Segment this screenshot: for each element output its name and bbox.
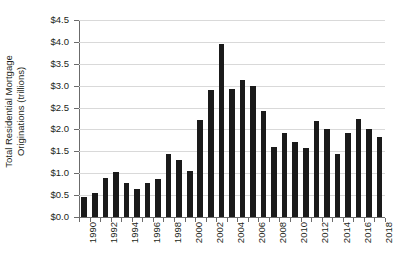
bar-slot [343,20,354,217]
x-axis-tick-labels: 1990199219941996199820002002200420062008… [79,222,385,266]
bar[interactable] [103,178,109,217]
bar[interactable] [377,137,383,217]
x-axis-tick-label: 2010 [299,222,309,243]
bar-slot [206,20,217,217]
bar[interactable] [124,183,130,217]
y-axis-tickmark [74,108,79,109]
bar[interactable] [187,171,193,217]
bar[interactable] [176,160,182,217]
bar[interactable] [155,179,161,217]
bar-slot [90,20,101,217]
bar[interactable] [292,142,298,217]
y-axis-tickmark [74,129,79,130]
bar-slot [142,20,153,217]
bar-slot [153,20,164,217]
bar[interactable] [335,154,341,217]
bar[interactable] [81,197,87,217]
bar-slot [216,20,227,217]
bar-slot [100,20,111,217]
plot-area [79,20,385,217]
bar-slot [111,20,122,217]
y-axis-tick-label: $2.5 [51,103,70,113]
y-axis-tick-label: $2.0 [51,124,70,134]
bar[interactable] [197,120,203,217]
y-axis-tickmark [74,42,79,43]
x-axis-tick-label: 1996 [152,222,162,243]
x-axis-tick-label: 2014 [342,222,352,243]
bar[interactable] [92,193,98,218]
bar[interactable] [166,154,172,217]
bar[interactable] [250,86,256,217]
bar[interactable] [145,183,151,217]
bar-chart: Total Residential Mortgage Originations … [0,0,401,266]
bar-slot [184,20,195,217]
y-axis-tick-label: $4.0 [51,37,70,47]
bar[interactable] [314,121,320,217]
x-axis-tick-label: 2016 [363,222,373,243]
y-axis-tick-label: $3.5 [51,59,70,69]
bar[interactable] [240,80,246,217]
bar[interactable] [282,133,288,217]
bar-slot [374,20,385,217]
bar-slot [311,20,322,217]
y-axis-tickmark [74,195,79,196]
x-axis-tick-label: 1992 [109,222,119,243]
y-axis-tick-label: $1.0 [51,168,70,178]
bar-slot [121,20,132,217]
y-axis-tickmark [74,20,79,21]
bar-slot [174,20,185,217]
bar-slot [79,20,90,217]
y-axis-tickmark [74,64,79,65]
y-axis-tick-label: $4.5 [51,15,70,25]
bar-slot [195,20,206,217]
x-axis-tick-label: 2018 [384,222,394,243]
y-axis-tickmark [74,151,79,152]
bar[interactable] [208,90,214,217]
bar-slot [269,20,280,217]
bar-slot [332,20,343,217]
bar-slot [237,20,248,217]
x-axis-tick-label: 2000 [194,222,204,243]
bar[interactable] [324,129,330,217]
x-axis-tick-label: 2004 [236,222,246,243]
bar-series [79,20,385,217]
bar-slot [227,20,238,217]
bar-slot [364,20,375,217]
y-axis-title-line-1: Total Residential Mortgage [3,55,15,167]
bar[interactable] [345,133,351,217]
x-axis-tick-label: 2006 [257,222,267,243]
bar-slot [279,20,290,217]
y-axis-tickmark [74,217,79,218]
bar[interactable] [356,119,362,218]
x-axis-tick-label: 1998 [173,222,183,243]
x-axis-tick-label: 2002 [215,222,225,243]
y-axis-tick-labels: $0.0$0.5$1.0$1.5$2.0$2.5$3.0$3.5$4.0$4.5 [28,0,72,222]
bar[interactable] [229,89,235,217]
bar-slot [258,20,269,217]
x-axis-tick-label: 2008 [278,222,288,243]
bar-slot [248,20,259,217]
bar[interactable] [113,172,119,217]
y-axis-tick-label: $3.0 [51,81,70,91]
x-axis-tick-label: 1990 [88,222,98,243]
y-axis-tick-label: $0.5 [51,190,70,200]
bar-slot [132,20,143,217]
y-axis-tick-label: $0.0 [51,212,70,222]
bar[interactable] [134,189,140,217]
x-axis-tick-label: 1994 [130,222,140,243]
bar-slot [300,20,311,217]
y-axis-tick-label: $1.5 [51,146,70,156]
bar[interactable] [261,111,267,217]
bar[interactable] [303,148,309,217]
y-axis-title-line-2: Originations (trillions) [14,55,26,167]
bar-slot [353,20,364,217]
y-axis-title: Total Residential Mortgage Originations … [0,0,28,222]
bar-slot [163,20,174,217]
bar[interactable] [366,129,372,217]
bar-slot [322,20,333,217]
bar[interactable] [271,147,277,217]
y-axis-tickmark [74,86,79,87]
bar[interactable] [219,44,225,217]
y-axis-tickmark [74,173,79,174]
x-axis-tick-label: 2012 [320,222,330,243]
